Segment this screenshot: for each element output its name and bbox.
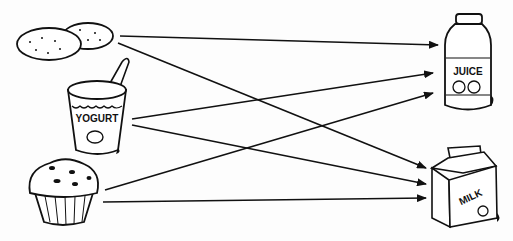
muffin-icon [29, 159, 98, 225]
diagram-canvas: YOGURT JUICE MILK [0, 0, 513, 241]
arrows [103, 36, 438, 202]
arrow-yogurt-juice [132, 73, 433, 119]
juice-label: JUICE [453, 66, 483, 77]
juice-icon: JUICE [445, 14, 494, 110]
arrow-yogurt-milk [132, 125, 426, 184]
arrow-cookies-milk [118, 43, 426, 168]
yogurt-label: YOGURT [76, 113, 119, 124]
yogurt-icon: YOGURT [68, 59, 129, 155]
food-drink-diagram: YOGURT JUICE MILK [0, 0, 513, 241]
milk-icon: MILK [432, 146, 500, 227]
cookies-icon [17, 23, 113, 60]
arrow-cookies-juice [120, 36, 438, 45]
arrow-muffin-milk [103, 198, 426, 202]
